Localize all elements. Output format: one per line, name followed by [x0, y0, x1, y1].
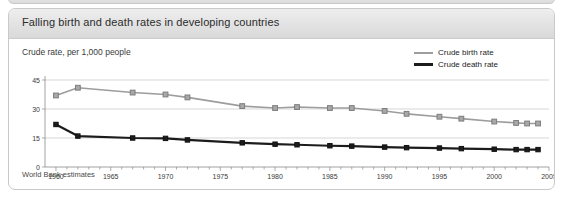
data-point-marker [185, 95, 190, 100]
chart-card: Falling birth and death rates in develop… [8, 8, 555, 190]
data-point-marker [54, 122, 58, 126]
data-point-marker [382, 145, 386, 149]
data-point-marker [295, 105, 300, 110]
screenshot-root: Falling birth and death rates in develop… [0, 0, 563, 197]
data-point-marker [273, 106, 278, 111]
data-point-marker [536, 147, 540, 151]
data-point-marker [350, 144, 354, 148]
chart-svg: 0153045196019651970197519801985199019952… [9, 9, 555, 190]
data-point-marker [459, 146, 463, 150]
x-tick-label: 1985 [322, 173, 338, 180]
data-point-marker [240, 141, 244, 145]
data-point-marker [328, 144, 332, 148]
data-point-marker [536, 121, 541, 126]
x-tick-label: 1990 [377, 173, 393, 180]
data-point-marker [295, 143, 299, 147]
x-tick-label: 2005 [541, 173, 555, 180]
data-point-marker [273, 142, 277, 146]
data-point-marker [76, 134, 80, 138]
data-point-marker [185, 138, 189, 142]
data-point-marker [382, 109, 387, 114]
data-point-marker [404, 145, 408, 149]
data-point-marker [163, 136, 167, 140]
data-point-marker [514, 121, 519, 126]
data-point-marker [492, 147, 496, 151]
data-point-marker [349, 106, 354, 111]
data-point-marker [525, 121, 530, 126]
data-point-marker [525, 147, 529, 151]
chart-source-note: World Bank estimates [22, 170, 95, 179]
data-point-marker [437, 114, 442, 119]
x-tick-label: 1995 [432, 173, 448, 180]
data-point-marker [327, 106, 332, 111]
data-point-marker [130, 90, 135, 95]
data-point-marker [240, 104, 245, 109]
y-tick-label: 45 [32, 77, 40, 84]
x-tick-label: 1970 [158, 173, 174, 180]
data-point-marker [75, 85, 80, 90]
data-point-marker [130, 136, 134, 140]
data-point-marker [459, 116, 464, 121]
y-tick-label: 15 [32, 135, 40, 142]
x-tick-label: 1975 [213, 173, 229, 180]
panel-above-sliver [8, 0, 555, 4]
data-point-marker [163, 92, 168, 97]
x-tick-label: 1980 [267, 173, 283, 180]
plot-area: 0153045196019651970197519801985199019952… [9, 9, 555, 190]
data-point-marker [514, 147, 518, 151]
x-tick-label: 2000 [486, 173, 502, 180]
data-point-marker [404, 111, 409, 116]
x-tick-label: 1965 [103, 173, 119, 180]
data-point-marker [54, 93, 59, 98]
y-tick-label: 30 [32, 106, 40, 113]
data-point-marker [437, 146, 441, 150]
data-point-marker [492, 119, 497, 124]
